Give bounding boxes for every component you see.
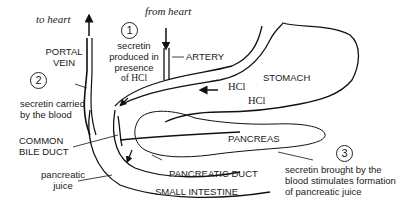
label-common-bile-duct: COMMON BILE DUCT [19,135,69,157]
step-2-badge: 2 [30,72,47,89]
step-3-badge: 3 [336,145,353,162]
small-intestine-outline [89,110,270,197]
common-bile-duct [118,116,122,146]
secretin-diagram: to heart from heart 1 secretin produced … [0,0,412,208]
pancreatic-duct [120,132,240,140]
label-to-heart: to heart [36,14,71,25]
step-2-text: secretin carried by the blood [20,98,85,120]
label-stomach: STOMACH [263,72,310,83]
label-hcl-2: HCl [248,95,266,106]
label-pancreatic-juice: pancreatic juice [38,169,88,191]
step-1-text: secretin produced in presence of HCl [104,40,164,84]
label-pancreatic-duct: PANCREATIC DUCT [169,168,258,179]
label-artery: ARTERY [186,51,224,62]
step-3-text: secretin brought by the blood stimulates… [285,164,396,197]
step-1-badge: 1 [121,22,138,39]
label-small-intestine: SMALL INTESTINE [155,186,238,197]
label-portal-vein: PORTAL VEIN [44,46,84,68]
label-pancreas: PANCREAS [228,133,280,144]
label-hcl-1: HCl [228,81,246,92]
arrow-juice-icon [128,150,132,160]
label-from-heart: from heart [145,6,191,17]
